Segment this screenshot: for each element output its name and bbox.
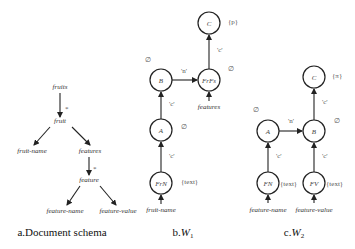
w1-annotation-frn: {text} xyxy=(181,178,198,186)
w1-input-frn: fruit-name xyxy=(146,206,176,214)
w2-input-fv: feature-value xyxy=(295,206,332,214)
schema-edge-feature-featurevalue xyxy=(100,186,116,205)
w1-graph: C {p} FrFs ∅ 'c' features B ∅ 'n' A ∅ 'c… xyxy=(145,12,238,240)
w1-edge-label-frfs-c: 'c' xyxy=(217,46,223,54)
document-schema: fruits * fruit fruit-name features * fea… xyxy=(17,83,136,238)
w1-annotation-b: ∅ xyxy=(145,56,151,64)
w2-node-fn-label: FN xyxy=(263,180,273,188)
w1-node-b-label: B xyxy=(159,77,164,85)
w1-node-a-label: A xyxy=(158,127,164,135)
w1-node-frn-label: FrN xyxy=(154,180,167,188)
w2-caption: c.W2 xyxy=(284,226,305,240)
schema-caption: a.Document schema xyxy=(17,226,106,238)
schema-node-features: features xyxy=(79,147,102,155)
w2-annotation-fv: {text} xyxy=(326,180,343,188)
w1-node-frfs-label: FrFs xyxy=(201,77,216,85)
w2-edge-label-a-b: 'n' xyxy=(288,117,294,125)
schema-star-fruit: * xyxy=(65,105,69,113)
schema-node-fruits: fruits xyxy=(53,83,68,91)
schema-node-fruit: fruit xyxy=(54,117,67,125)
w1-node-c-label: C xyxy=(207,20,212,28)
w1-input-frfs: features xyxy=(198,103,221,111)
w1-edge-label-b-frfs: 'n' xyxy=(181,67,187,75)
w1-caption: b.W1 xyxy=(173,226,194,240)
w2-edge-label-b-c: 'c' xyxy=(322,98,328,106)
schema-edge-fruit-fruitname xyxy=(34,127,50,145)
w2-annotation-fn: {text} xyxy=(280,180,297,188)
w1-edge-label-a-b: 'c' xyxy=(169,100,175,108)
w1-annotation-frfs: ∅ xyxy=(228,65,234,73)
schema-node-feature-name: feature-name xyxy=(46,207,83,215)
schema-node-fruit-name: fruit-name xyxy=(17,147,47,155)
w2-graph: C {π} B ∅ 'c' A ∅ 'n' FN {text} 'c' feat… xyxy=(249,66,343,240)
schema-node-feature-value: feature-value xyxy=(99,207,136,215)
w2-node-a-label: A xyxy=(265,128,271,136)
schema-node-feature: feature xyxy=(79,176,99,184)
w2-edge-label-fv-b: 'c' xyxy=(322,152,328,160)
schema-edge-fruit-features xyxy=(72,127,90,145)
w2-annotation-c: {π} xyxy=(332,72,342,80)
w2-edge-label-fn-a: 'c' xyxy=(276,152,282,160)
w1-edge-label-frn-a: 'c' xyxy=(169,152,175,160)
w1-annotation-a: ∅ xyxy=(181,123,187,131)
schema-edge-feature-featurename xyxy=(67,186,80,205)
w2-node-b-label: B xyxy=(312,128,317,136)
diagram-canvas: fruits * fruit fruit-name features * fea… xyxy=(0,0,355,249)
w1-annotation-c: {p} xyxy=(228,18,238,26)
w2-node-c-label: C xyxy=(312,74,317,82)
w2-annotation-a: ∅ xyxy=(253,106,259,114)
schema-star-feature: * xyxy=(93,165,97,173)
w2-annotation-b: ∅ xyxy=(334,117,340,125)
w2-input-fn: feature-name xyxy=(249,206,286,214)
w2-node-fv-label: FV xyxy=(309,180,319,188)
